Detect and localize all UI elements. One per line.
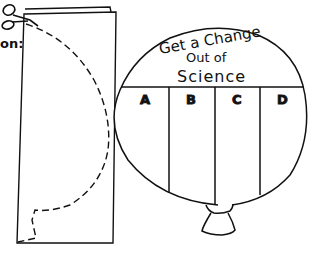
- column-a: A: [140, 92, 150, 107]
- column-d: D: [277, 92, 288, 107]
- illustration: on:: [0, 0, 310, 253]
- column-b: B: [186, 92, 196, 107]
- folded-paper: [17, 7, 116, 243]
- column-c: C: [232, 92, 242, 107]
- title-line-3: Science: [177, 67, 246, 86]
- line-art: Get a Change Out of Science A B C D: [0, 0, 310, 253]
- partial-label: on:: [0, 36, 23, 51]
- title-line-2: Out of: [186, 50, 227, 65]
